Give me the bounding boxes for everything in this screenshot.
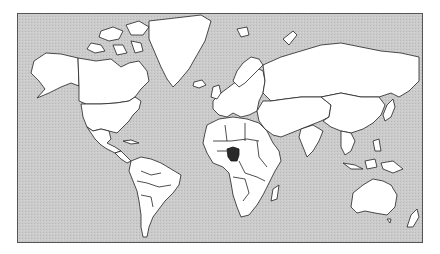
world-map <box>17 13 423 243</box>
